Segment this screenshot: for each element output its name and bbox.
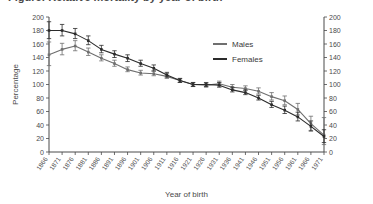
y-tick-label-right: 40 bbox=[329, 122, 337, 129]
y-tick-label-left: 100 bbox=[32, 81, 44, 88]
x-tick-label: 1886 bbox=[87, 155, 101, 171]
data-point-males bbox=[48, 54, 51, 57]
data-point-females bbox=[179, 79, 182, 82]
y-tick-label-right: 180 bbox=[329, 27, 341, 34]
y-tick-label-right: 60 bbox=[329, 108, 337, 115]
x-tick-label: 1941 bbox=[231, 155, 245, 171]
data-point-females bbox=[152, 67, 155, 70]
x-tick-label: 1951 bbox=[257, 155, 271, 171]
x-tick-label: 1971 bbox=[310, 155, 324, 171]
x-tick-label: 1931 bbox=[205, 155, 219, 171]
y-tick-label-left: 80 bbox=[36, 95, 44, 102]
x-tick-label: 1876 bbox=[61, 155, 75, 171]
y-tick-label-right: 100 bbox=[329, 81, 341, 88]
x-tick-label: 1866 bbox=[35, 155, 49, 171]
data-point-females bbox=[205, 83, 208, 86]
data-point-males bbox=[74, 45, 77, 48]
x-tick-label: 1911 bbox=[153, 155, 167, 171]
chart-plot-area: 0020204040606080801001001201201401401601… bbox=[0, 0, 373, 204]
y-tick-label-right: 0 bbox=[329, 149, 333, 156]
y-tick-label-right: 120 bbox=[329, 68, 341, 75]
x-tick-label: 1906 bbox=[140, 155, 154, 171]
data-point-females bbox=[310, 125, 313, 128]
data-point-females bbox=[218, 84, 221, 87]
data-point-females bbox=[283, 109, 286, 112]
x-tick-label: 1871 bbox=[48, 155, 62, 171]
x-axis-title: Year of birth bbox=[165, 190, 208, 199]
data-point-females bbox=[87, 39, 90, 42]
data-point-females bbox=[139, 62, 142, 65]
x-tick-label: 1921 bbox=[179, 155, 193, 171]
x-tick-label: 1966 bbox=[297, 155, 311, 171]
y-tick-label-left: 200 bbox=[32, 14, 44, 21]
x-tick-label: 1956 bbox=[271, 155, 285, 171]
data-point-males bbox=[152, 72, 155, 75]
data-point-males bbox=[139, 72, 142, 75]
x-tick-label: 1961 bbox=[284, 155, 298, 171]
data-point-males bbox=[113, 62, 116, 65]
data-point-males bbox=[270, 95, 273, 98]
y-tick-label-right: 200 bbox=[329, 14, 341, 21]
legend-label-females: Females bbox=[232, 55, 263, 64]
data-point-males bbox=[244, 87, 247, 90]
data-point-females bbox=[61, 29, 64, 32]
y-tick-label-right: 140 bbox=[329, 54, 341, 61]
x-tick-label: 1881 bbox=[74, 155, 88, 171]
data-point-males bbox=[100, 57, 103, 60]
x-tick-label: 1891 bbox=[100, 155, 114, 171]
y-tick-label-left: 160 bbox=[32, 41, 44, 48]
x-tick-label: 1916 bbox=[166, 155, 180, 171]
y-tick-label-right: 160 bbox=[329, 41, 341, 48]
x-tick-label: 1901 bbox=[126, 155, 140, 171]
y-tick-label-left: 60 bbox=[36, 108, 44, 115]
figure-container: Figure: Relative mortality by year of bi… bbox=[0, 0, 373, 204]
legend-label-males: Males bbox=[232, 40, 253, 49]
data-point-males bbox=[297, 108, 300, 111]
data-point-males bbox=[87, 51, 90, 54]
data-point-females bbox=[323, 135, 326, 138]
data-point-females bbox=[231, 89, 234, 92]
data-point-males bbox=[257, 90, 260, 93]
data-point-females bbox=[113, 53, 116, 56]
data-point-males bbox=[126, 68, 129, 71]
y-tick-label-left: 180 bbox=[32, 27, 44, 34]
y-tick-label-left: 120 bbox=[32, 68, 44, 75]
y-tick-label-right: 20 bbox=[329, 135, 337, 142]
data-point-males bbox=[61, 48, 64, 51]
data-point-females bbox=[192, 83, 195, 86]
data-point-females bbox=[74, 33, 77, 36]
data-point-females bbox=[126, 57, 129, 60]
data-point-females bbox=[166, 74, 169, 77]
data-point-females bbox=[48, 29, 51, 32]
y-tick-label-left: 40 bbox=[36, 122, 44, 129]
data-point-females bbox=[257, 97, 260, 100]
x-tick-label: 1936 bbox=[218, 155, 232, 171]
x-tick-label: 1896 bbox=[113, 155, 127, 171]
data-point-males bbox=[283, 99, 286, 102]
x-tick-label: 1946 bbox=[244, 155, 258, 171]
y-axis-title: Percentage bbox=[11, 63, 20, 104]
y-tick-label-left: 20 bbox=[36, 135, 44, 142]
series-line-males bbox=[49, 46, 324, 135]
data-point-females bbox=[244, 91, 247, 94]
data-point-females bbox=[100, 48, 103, 51]
data-point-females bbox=[270, 103, 273, 106]
line-chart: 0020204040606080801001001201201401401601… bbox=[0, 0, 373, 204]
series-line-females bbox=[49, 31, 324, 137]
x-tick-label: 1926 bbox=[192, 155, 206, 171]
data-point-females bbox=[297, 116, 300, 119]
y-tick-label-left: 0 bbox=[40, 149, 44, 156]
y-tick-label-left: 140 bbox=[32, 54, 44, 61]
y-tick-label-right: 80 bbox=[329, 95, 337, 102]
